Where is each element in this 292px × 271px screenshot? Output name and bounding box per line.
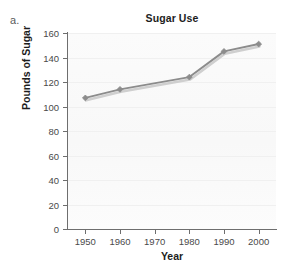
x-axis-tick (224, 230, 225, 234)
y-axis-tick-label: 20 (33, 199, 59, 210)
y-axis-tick (63, 229, 67, 230)
gridline (68, 205, 276, 206)
plot-area (68, 33, 276, 229)
y-axis-tick (63, 156, 67, 157)
gridline (68, 33, 276, 34)
y-axis-tick-label: 100 (33, 101, 59, 112)
y-axis-tick-label: 0 (33, 224, 59, 235)
y-axis-tick (63, 82, 67, 83)
gridline (68, 82, 276, 83)
x-axis-tick (85, 230, 86, 234)
y-axis-tick (63, 58, 67, 59)
y-axis-tick-label: 120 (33, 77, 59, 88)
x-axis-tick (155, 230, 156, 234)
y-axis-tick (63, 107, 67, 108)
y-axis-tick (63, 131, 67, 132)
y-axis-tick (63, 33, 67, 34)
gridline (68, 131, 276, 132)
y-axis-tick-label: 80 (33, 126, 59, 137)
gridline (68, 58, 276, 59)
sugar-use-figure: a. Sugar Use 020406080100120140160 19501… (0, 0, 292, 271)
y-axis-tick-label: 40 (33, 175, 59, 186)
panel-letter: a. (10, 14, 20, 26)
x-axis-tick (120, 230, 121, 234)
gridline (68, 180, 276, 181)
y-axis-tick (63, 205, 67, 206)
gridline (68, 156, 276, 157)
x-axis-line (67, 229, 277, 230)
y-axis-tick-label: 140 (33, 52, 59, 63)
chart-title: Sugar Use (68, 12, 276, 24)
y-axis-line (67, 32, 68, 230)
x-axis-tick (259, 230, 260, 234)
x-axis-tick (189, 230, 190, 234)
y-axis-tick (63, 180, 67, 181)
y-axis-tick-label: 160 (33, 28, 59, 39)
y-axis-title: Pounds of Sugar (20, 0, 32, 138)
x-axis-tick-label: 2000 (239, 236, 279, 247)
x-axis-title: Year (68, 250, 276, 262)
gridline (68, 107, 276, 108)
y-axis-tick-label: 60 (33, 150, 59, 161)
